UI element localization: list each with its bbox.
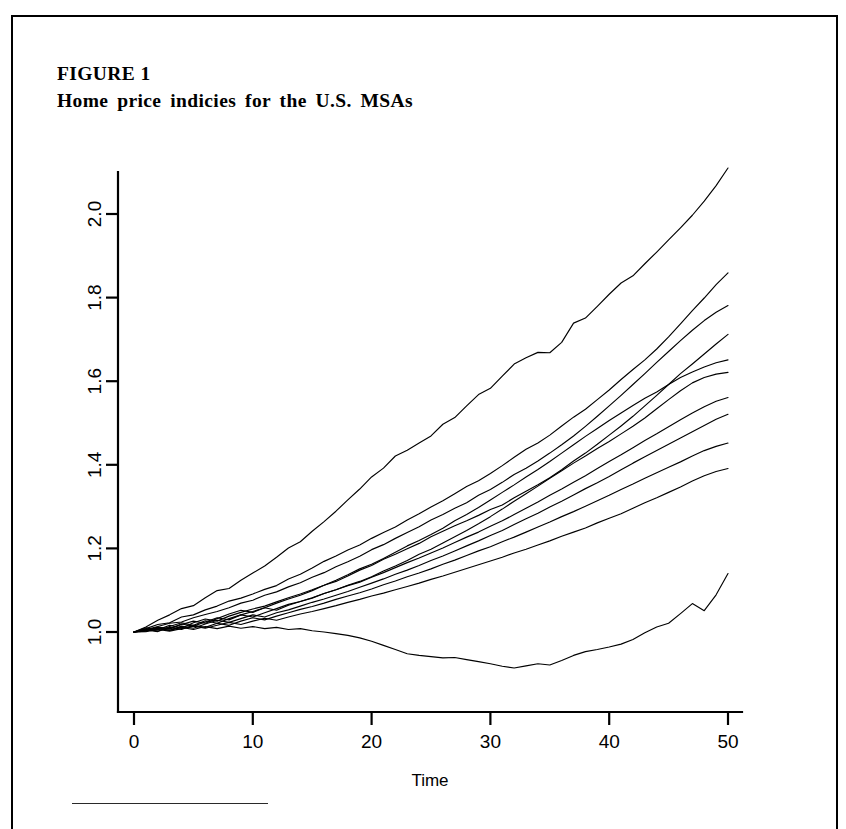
chart-tick-labels-group: 1.01.21.41.61.82.001020304050 (84, 201, 739, 752)
chart-series-line (134, 306, 728, 632)
y-axis-tick-label: 1.4 (84, 451, 105, 478)
chart-series-line (134, 414, 728, 632)
chart-series-group (134, 168, 728, 668)
x-axis-tick-label: 20 (361, 731, 382, 752)
x-axis-tick-label: 0 (129, 731, 140, 752)
chart-series-line (134, 168, 728, 632)
y-axis-tick-label: 1.8 (84, 284, 105, 310)
footnote-rule (72, 803, 268, 804)
chart-series-line (134, 469, 728, 632)
chart-series-line (134, 360, 728, 632)
x-axis-tick-label: 10 (242, 731, 263, 752)
y-axis-tick-label: 2.0 (84, 201, 105, 227)
y-axis-tick-label: 1.6 (84, 368, 105, 394)
y-axis-tick-label: 1.0 (84, 619, 105, 645)
x-axis-tick-label: 30 (480, 731, 501, 752)
y-axis-tick-label: 1.2 (84, 535, 105, 561)
x-axis-tick-label: 40 (599, 731, 620, 752)
x-axis-title: Time (411, 771, 448, 790)
figure-page: FIGURE 1 Home price indicies for the U.S… (0, 0, 846, 829)
chart-plot-area: 1.01.21.41.61.82.001020304050 Time (0, 0, 846, 829)
x-axis-tick-label: 50 (717, 731, 738, 752)
chart-axes-group (106, 172, 742, 725)
line-chart-svg: 1.01.21.41.61.82.001020304050 Time (0, 0, 846, 829)
chart-series-line (134, 273, 728, 632)
chart-series-line (134, 398, 728, 632)
